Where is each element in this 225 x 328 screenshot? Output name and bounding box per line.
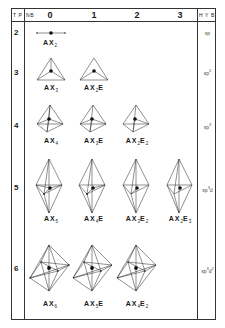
tp-column-divider — [24, 8, 25, 320]
column-2: 2 — [134, 10, 139, 20]
column-0: 0 — [47, 10, 52, 20]
linear-geometry-icon — [36, 30, 66, 36]
formula-ax5: AX5 — [44, 215, 58, 224]
hyb-sp2: sp2 — [199, 68, 216, 76]
square-planar-icon — [116, 244, 158, 292]
trigonal-bipyramidal-icon — [35, 158, 65, 214]
formula-ax6: AX6 — [43, 300, 57, 309]
formula-ax4e2: AX4E2 — [126, 300, 148, 309]
row-label-5: 5 — [14, 183, 18, 192]
trigonal-planar-icon — [36, 57, 66, 81]
row-label-2: 2 — [14, 28, 18, 37]
header-tp: T P — [13, 12, 23, 18]
formula-ax4: AX4 — [44, 137, 58, 146]
bent-tetrahedral-icon — [122, 104, 150, 134]
row-label-3: 3 — [14, 68, 18, 77]
t-shaped-icon — [122, 158, 152, 214]
hyb-sp: sp — [199, 30, 216, 36]
column-1: 1 — [91, 10, 96, 20]
hyb-sp3d: sp3d — [199, 185, 216, 193]
hyb-column-divider — [197, 8, 198, 320]
linear-bipyramidal-icon — [166, 158, 194, 214]
formula-ax3e2: AX3E2 — [126, 215, 148, 224]
header-divider — [11, 21, 216, 22]
hyb-sp3d2: sp3d2 — [199, 266, 216, 274]
column-3: 3 — [177, 10, 182, 20]
trigonal-pyramidal-icon — [79, 104, 107, 134]
tetrahedral-icon — [36, 104, 64, 134]
formula-ax2e: AX2E — [84, 84, 104, 93]
formula-ax2e2: AX2E2 — [126, 137, 148, 146]
formula-ax3e: AX3E — [84, 137, 104, 146]
formula-ax5e: AX5E — [84, 300, 104, 309]
header-nb: NB — [26, 12, 34, 18]
formula-ax2: AX2 — [43, 39, 57, 48]
header-hyb: H Y B — [199, 12, 215, 18]
octahedral-icon — [29, 244, 71, 292]
formula-ax3: AX3 — [44, 84, 58, 93]
trigonal-planar-lonepair-icon — [79, 57, 109, 81]
row-label-6: 6 — [14, 264, 18, 273]
hyb-sp3: sp3 — [199, 122, 216, 130]
square-pyramidal-icon — [72, 244, 114, 292]
formula-ax4e: AX4E — [84, 215, 104, 224]
row-label-4: 4 — [14, 121, 18, 130]
formula-ax2e3: AX2E3 — [169, 215, 191, 224]
seesaw-icon — [78, 158, 108, 214]
